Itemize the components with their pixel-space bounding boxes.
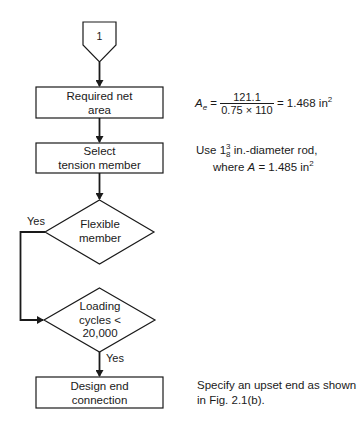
required-net-area-line1: Required net (36, 89, 163, 103)
design-end-connection-line1: Design end (36, 379, 163, 393)
flowchart-canvas (0, 0, 362, 428)
note-net-area-formula: Ae = 121.1 0.75 × 110 = 1.468 in2 (195, 91, 332, 116)
flexible-member-line2: member (60, 232, 140, 246)
loading-cycles-label: Loading cycles < 20,000 (60, 300, 140, 341)
flexible-member-label: Flexible member (60, 218, 140, 245)
flexible-member-line1: Flexible (60, 218, 140, 232)
rod-size-whole: Use 1 (196, 144, 226, 156)
where-text: where (213, 161, 248, 173)
design-end-connection-line2: connection (36, 393, 163, 407)
formula-subscript: e (203, 103, 207, 112)
loading-cycles-line2: cycles < (60, 314, 140, 328)
edge-label-flexible-yes: Yes (27, 215, 45, 227)
edge-label-loading-yes: Yes (106, 352, 124, 364)
area-exponent: 2 (309, 159, 313, 168)
area-value: = 1.485 in (255, 161, 309, 173)
select-tension-member-line1: Select (36, 144, 163, 158)
note-tension-member-line2: where A = 1.485 in2 (196, 160, 317, 175)
loading-cycles-line1: Loading (60, 300, 140, 314)
select-tension-member-line2: tension member (36, 158, 163, 172)
note-end-connection-line1: Specify an upset end as shown (197, 378, 356, 393)
formula-result-exponent: 2 (328, 95, 332, 104)
formula-denominator: 0.75 × 110 (220, 104, 273, 116)
loading-cycles-line3: 20,000 (60, 327, 140, 341)
formula-fraction: 121.1 0.75 × 110 (220, 91, 273, 116)
formula-variable: A (195, 97, 203, 109)
note-end-connection: Specify an upset end as shown in Fig. 2.… (197, 378, 356, 408)
formula-numerator: 121.1 (220, 91, 273, 104)
formula-result: = 1.468 in (277, 97, 328, 109)
design-end-connection-label: Design end connection (36, 379, 163, 407)
note-tension-member: Use 138 in.-diameter rod, where A = 1.48… (196, 143, 317, 175)
required-net-area-line2: area (36, 103, 163, 117)
yes-branch-flexible-to-loading (21, 232, 46, 320)
formula-equals: = (210, 97, 217, 109)
select-tension-member-label: Select tension member (36, 144, 163, 172)
rod-description: in.-diameter rod, (231, 144, 318, 156)
note-end-connection-line2: in Fig. 2.1(b). (197, 393, 356, 408)
required-net-area-label: Required net area (36, 89, 163, 117)
note-tension-member-line1: Use 138 in.-diameter rod, (196, 143, 317, 159)
off-page-connector-label: 1 (83, 29, 116, 43)
